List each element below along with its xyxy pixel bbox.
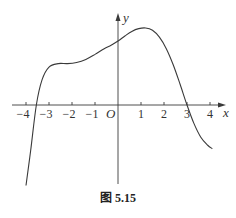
y-axis-label: y: [121, 10, 129, 25]
x-tick-label: −2: [63, 107, 76, 121]
x-tick-label: −4: [17, 107, 30, 121]
x-tick-label: 2: [161, 107, 167, 121]
x-tick-label: −1: [86, 107, 99, 121]
x-tick-label: 3: [184, 107, 190, 121]
function-graph: x y O −4−3−2−11234 图 5.15: [0, 0, 236, 218]
x-tick-label: 1: [138, 107, 144, 121]
origin-label: O: [106, 106, 116, 121]
x-tick-label: −3: [40, 107, 53, 121]
x-tick-label: 4: [207, 107, 213, 121]
y-axis-arrow-icon: [116, 13, 121, 21]
axes: x y O: [12, 10, 229, 184]
x-axis-label: x: [222, 105, 229, 120]
figure-caption: 图 5.15: [100, 191, 136, 205]
